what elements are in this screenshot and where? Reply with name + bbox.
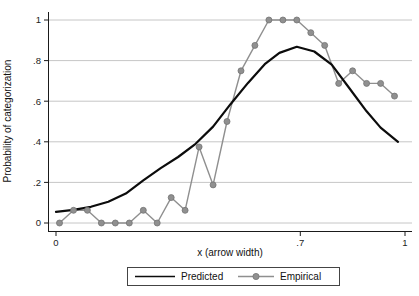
empirical-marker [308, 30, 314, 36]
y-tick-label: .6 [33, 96, 41, 107]
empirical-marker [378, 80, 384, 86]
y-axis-title: Probability of categorization [2, 60, 13, 183]
line-chart: 0.2.4.6.810.71 Probability of categoriza… [0, 0, 419, 296]
empirical-marker [140, 207, 146, 213]
empirical-marker [210, 182, 216, 188]
empirical-marker [112, 220, 118, 226]
legend-label-empirical: Empirical [280, 271, 321, 282]
empirical-marker [84, 207, 90, 213]
y-tick-label: 1 [36, 14, 41, 25]
x-tick-label: 0 [53, 237, 58, 248]
empirical-marker [182, 207, 188, 213]
empirical-marker [392, 93, 398, 99]
empirical-marker [350, 68, 356, 74]
empirical-marker [294, 17, 300, 23]
predicted-line [56, 47, 398, 212]
series-layer [56, 17, 398, 226]
chart-figure: 0.2.4.6.810.71 Probability of categoriza… [0, 0, 419, 296]
empirical-marker [126, 220, 132, 226]
empirical-marker [168, 195, 174, 201]
empirical-marker [238, 68, 244, 74]
y-tick-label: 0 [36, 217, 41, 228]
empirical-marker [364, 80, 370, 86]
legend: Predicted Empirical [128, 268, 340, 286]
x-tick-label: .7 [296, 237, 304, 248]
empirical-marker [196, 144, 202, 150]
x-axis-title: x (arrow width) [197, 247, 263, 258]
empirical-marker [224, 119, 230, 125]
empirical-marker [280, 17, 286, 23]
empirical-marker [266, 17, 272, 23]
legend-marker-empirical [253, 273, 259, 279]
empirical-marker [154, 220, 160, 226]
empirical-marker [98, 220, 104, 226]
legend-label-predicted: Predicted [181, 271, 223, 282]
x-tick-label: 1 [402, 237, 407, 248]
y-tick-label: .8 [33, 55, 41, 66]
empirical-marker [57, 220, 63, 226]
y-tick-label: .2 [33, 177, 41, 188]
empirical-marker [71, 207, 77, 213]
empirical-marker [322, 42, 328, 48]
y-tick-label: .4 [33, 136, 41, 147]
empirical-marker [336, 80, 342, 86]
empirical-marker [252, 42, 258, 48]
